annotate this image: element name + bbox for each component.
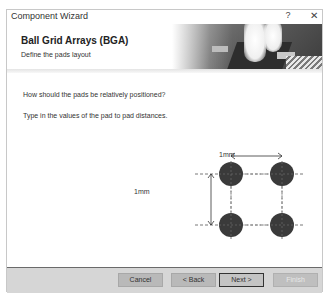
window-title: Component Wizard: [11, 11, 88, 21]
help-button[interactable]: ?: [281, 10, 295, 20]
page-subtitle: Define the pads layout: [21, 51, 91, 58]
close-button[interactable]: ✕: [307, 10, 321, 21]
wizard-content: How should the pads be relatively positi…: [7, 73, 322, 267]
component-wizard-window: Component Wizard ? ✕ Ball Grid Arrays (B…: [6, 9, 323, 292]
wizard-footer: Cancel < Back Next > Finish: [7, 267, 322, 293]
page-title: Ball Grid Arrays (BGA): [21, 35, 128, 46]
vertical-distance-value[interactable]: 1mm: [134, 188, 150, 195]
instruction-text: Type in the values of the pad to pad dis…: [23, 112, 167, 119]
pad-layout-diagram: [187, 151, 307, 251]
pad-bottom-right: [270, 213, 294, 237]
title-bar: Component Wizard ? ✕: [7, 10, 322, 24]
finish-button[interactable]: Finish: [273, 273, 318, 287]
header-banner-image: [172, 24, 322, 72]
back-button[interactable]: < Back: [171, 273, 216, 287]
next-button[interactable]: Next >: [219, 273, 264, 287]
question-text: How should the pads be relatively positi…: [23, 91, 165, 98]
cancel-button[interactable]: Cancel: [118, 273, 163, 287]
wizard-header: Ball Grid Arrays (BGA) Define the pads l…: [7, 24, 322, 72]
